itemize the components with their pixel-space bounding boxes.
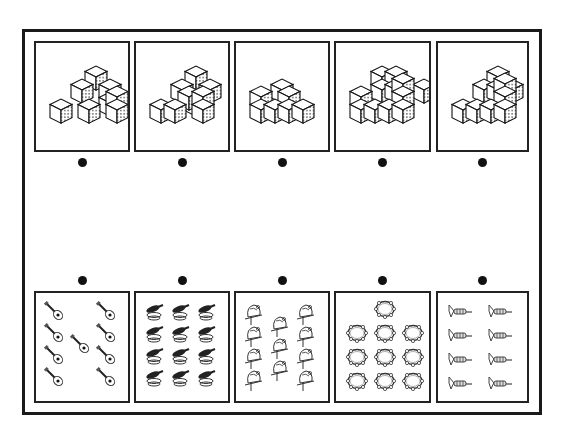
tambourine-icon [374,349,395,366]
tambourine-icon [346,325,367,342]
connect-dot-top-3[interactable] [278,158,287,167]
tambourine-icon [346,373,367,390]
worksheet-title: Match the cube stack to the group of ins… [0,0,1,1]
bell-icon [297,305,314,325]
bell-icon [297,327,314,347]
trumpet-icon [449,377,472,389]
bells-card[interactable] [234,291,330,403]
trumpet-icon [489,329,512,341]
trumpet-icon [449,305,472,317]
cube-stack-icon [336,43,429,150]
harmonica-icon [145,348,163,364]
tambourine-icon [374,373,395,390]
guitar-icon [44,323,64,343]
connect-dot-top-5[interactable] [478,158,487,167]
connect-dot-top-2[interactable] [178,158,187,167]
cube-stack-card-3[interactable] [234,41,330,152]
guitar-icon [96,345,116,365]
harmonica-icon [171,370,189,386]
bell-group [236,293,328,401]
harmonicas-card[interactable] [134,291,230,403]
cube-stack-card-2[interactable] [134,41,230,152]
guitars-card[interactable] [34,291,130,403]
tambourine-icon [374,301,395,318]
guitar-icon [44,367,64,387]
bell-icon [245,349,262,369]
guitar-icon [96,367,116,387]
cube-stack-card-1[interactable] [34,41,130,152]
trumpet-group [438,293,527,401]
cube-stack-card-5[interactable] [436,41,529,152]
harmonica-icon [171,348,189,364]
connect-dot-bottom-5[interactable] [478,276,487,285]
harmonica-icon [145,326,163,342]
cube-stack-icon [236,43,328,150]
connect-dot-bottom-1[interactable] [78,276,87,285]
trumpet-icon [489,377,512,389]
bell-icon [271,317,288,337]
harmonica-icon [197,348,215,364]
cube-stack-icon [136,43,228,150]
harmonica-icon [171,304,189,320]
harmonica-group [136,293,228,401]
bell-icon [245,327,262,347]
tambourine-icon [402,349,423,366]
bell-icon [245,305,262,325]
cube-stack-icon [36,43,128,150]
trumpets-card[interactable] [436,291,529,403]
trumpet-icon [449,353,472,365]
connect-dot-top-1[interactable] [78,158,87,167]
cube-stack-icon [438,43,527,150]
connect-dot-bottom-4[interactable] [378,276,387,285]
connect-dot-top-4[interactable] [378,158,387,167]
connect-dot-bottom-3[interactable] [278,276,287,285]
bell-icon [297,371,314,391]
bell-icon [297,349,314,369]
guitar-icon [96,323,116,343]
guitar-icon [96,301,116,321]
tambourines-card[interactable] [334,291,431,403]
harmonica-icon [197,304,215,320]
harmonica-icon [145,304,163,320]
bell-icon [271,361,288,381]
harmonica-icon [197,326,215,342]
trumpet-icon [489,305,512,317]
cube-stack-card-4[interactable] [334,41,431,152]
tambourine-icon [402,373,423,390]
tambourine-icon [374,325,395,342]
trumpet-icon [489,353,512,365]
guitar-icon [44,301,64,321]
tambourine-icon [346,349,367,366]
harmonica-icon [197,370,215,386]
bell-icon [245,371,262,391]
guitar-icon [70,334,90,354]
bell-icon [271,339,288,359]
trumpet-icon [449,329,472,341]
guitar-icon [44,345,64,365]
tambourine-group [336,293,429,401]
guitar-group [36,293,128,401]
harmonica-icon [171,326,189,342]
tambourine-icon [402,325,423,342]
harmonica-icon [145,370,163,386]
connect-dot-bottom-2[interactable] [178,276,187,285]
